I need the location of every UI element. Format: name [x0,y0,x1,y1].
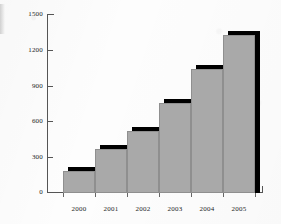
x-tick-mark-4 [191,193,192,197]
x-axis-end-cap [262,186,263,193]
bar-chart: 1500 1200 900 600 300 0 [0,0,281,224]
x-tick-mark-5 [223,193,224,197]
bar-shadow-right-2005 [255,31,260,193]
y-tick-mark-1500 [47,14,53,15]
bar-2002 [127,131,159,193]
y-tick-mark-600 [47,121,53,122]
x-tick-label-2000: 2000 [63,206,95,213]
y-tick-label-1200: 1200 [12,47,43,54]
x-tick-label-2001: 2001 [95,206,127,213]
y-tick-mark-900 [47,86,53,87]
y-tick-mark-300 [47,157,53,158]
y-axis-line [47,14,48,193]
y-tick-label-1500: 1500 [12,11,43,18]
bar-2005 [223,35,255,193]
y-tick-label-0: 0 [12,189,43,196]
y-tick-label-900: 900 [12,83,43,90]
x-tick-mark-2 [127,193,128,197]
x-tick-mark-3 [159,193,160,197]
x-tick-mark-6 [255,193,256,197]
y-tick-label-600: 600 [12,118,43,125]
x-tick-label-2003: 2003 [159,206,191,213]
bar-2003 [159,103,191,193]
bar-2004 [191,69,223,193]
x-tick-mark-0 [63,193,64,197]
x-tick-label-2004: 2004 [191,206,223,213]
x-tick-label-2005: 2005 [223,206,255,213]
plot-area: 1500 1200 900 600 300 0 [0,0,281,224]
bar-2000 [63,171,95,193]
bar-2001 [95,149,127,193]
x-tick-mark-1 [95,193,96,197]
x-tick-label-2002: 2002 [127,206,159,213]
y-tick-label-300: 300 [12,154,43,161]
y-tick-mark-1200 [47,50,53,51]
